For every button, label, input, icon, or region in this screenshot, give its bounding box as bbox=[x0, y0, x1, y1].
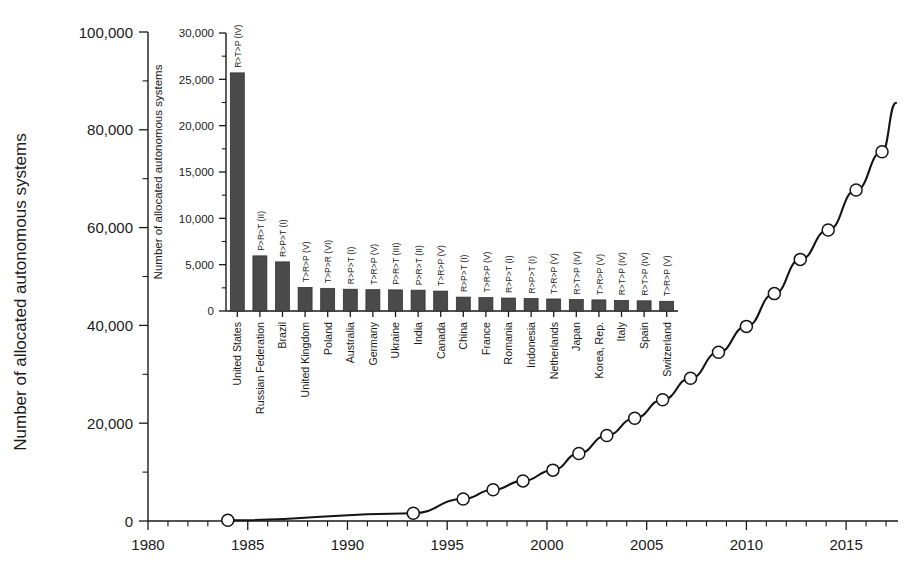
bar-category-label: United Kingdom bbox=[299, 322, 311, 398]
inset-y-ticks bbox=[219, 33, 226, 311]
bar-category-label: France bbox=[480, 322, 492, 355]
bar-code-label: R>T>P (IV) bbox=[233, 24, 243, 67]
inset-x-ticks bbox=[237, 311, 666, 317]
bar-code-label: T>R>P (V) bbox=[369, 244, 379, 285]
bar-category-label: Spain bbox=[638, 322, 650, 349]
bar-category-label: Brazil bbox=[276, 322, 288, 349]
bar-category-label: Japan bbox=[570, 322, 582, 351]
bar bbox=[660, 301, 674, 311]
bar-code-label: T>R>P (V) bbox=[549, 253, 559, 294]
svg-text:80,000: 80,000 bbox=[87, 121, 133, 138]
main-y-tick-labels: 020,00040,00060,00080,000100,000 bbox=[79, 24, 133, 530]
bar-code-label: R>P>T (I) bbox=[278, 219, 288, 257]
bar-category-label: Poland bbox=[322, 322, 334, 355]
svg-text:0: 0 bbox=[208, 305, 214, 317]
bar-category-label: Ukraine bbox=[389, 322, 401, 359]
bar-code-label: T>R>P (V) bbox=[301, 241, 311, 282]
bar bbox=[592, 300, 606, 311]
svg-text:25,000: 25,000 bbox=[179, 74, 214, 86]
bar-code-label: P>R>T (II) bbox=[414, 245, 424, 285]
svg-text:2010: 2010 bbox=[730, 536, 763, 553]
inset-category-labels: United StatesRussian FederationBrazilUni… bbox=[231, 321, 672, 414]
bar-code-label: R>T>P (IV) bbox=[572, 251, 582, 294]
svg-text:5,000: 5,000 bbox=[185, 259, 214, 271]
bar bbox=[434, 291, 448, 311]
bar bbox=[501, 298, 515, 311]
bar-code-label: P>R>T (II) bbox=[256, 211, 266, 251]
bar-code-label: T>P>R (VI) bbox=[323, 240, 333, 284]
svg-text:2015: 2015 bbox=[829, 536, 862, 553]
bar bbox=[275, 262, 289, 311]
svg-text:2000: 2000 bbox=[530, 536, 563, 553]
figure-container: 020,00040,00060,00080,000100,000 1980198… bbox=[0, 0, 911, 584]
main-y-axis-title: Number of allocated autonomous systems bbox=[11, 133, 30, 451]
svg-text:0: 0 bbox=[125, 513, 133, 530]
bar-code-label: R>T>P (IV) bbox=[617, 252, 627, 295]
bar bbox=[456, 297, 470, 311]
bar-code-label: T>R>P (V) bbox=[595, 254, 605, 295]
bar bbox=[614, 300, 628, 311]
main-y-ticks bbox=[139, 32, 148, 521]
chart-canvas: 020,00040,00060,00080,000100,000 1980198… bbox=[0, 0, 911, 584]
bar-category-label: Korea, Rep. bbox=[593, 322, 605, 379]
svg-text:2005: 2005 bbox=[630, 536, 663, 553]
bar-code-label: T>R>P (V) bbox=[436, 245, 446, 286]
bar bbox=[253, 256, 267, 311]
bar-category-label: Romania bbox=[502, 322, 514, 365]
svg-text:1990: 1990 bbox=[331, 536, 364, 553]
svg-text:1995: 1995 bbox=[431, 536, 464, 553]
inset-y-tick-labels: 05,00010,00015,00020,00025,00030,000 bbox=[179, 27, 214, 317]
bar-category-label: China bbox=[457, 322, 469, 350]
bar-category-label: Italy bbox=[615, 321, 627, 341]
svg-text:1980: 1980 bbox=[131, 536, 164, 553]
bar-category-label: Netherlands bbox=[548, 322, 560, 379]
svg-text:20,000: 20,000 bbox=[179, 120, 214, 132]
bar-code-label: R>P>T (I) bbox=[346, 247, 356, 285]
bar-code-label: T>R>P (V) bbox=[662, 255, 672, 296]
main-line-chart: 020,00040,00060,00080,000100,000 1980198… bbox=[11, 24, 898, 554]
bar bbox=[479, 298, 493, 311]
svg-text:1985: 1985 bbox=[231, 536, 264, 553]
bar bbox=[524, 298, 538, 311]
inset-bar-chart: 05,00010,00015,00020,00025,00030,000 R>T… bbox=[152, 24, 678, 413]
bar-code-label: R>P>T (I) bbox=[459, 254, 469, 292]
bar-code-label: P>R>T (III) bbox=[391, 242, 401, 284]
svg-text:60,000: 60,000 bbox=[87, 219, 133, 236]
bar bbox=[366, 290, 380, 311]
bar-category-label: India bbox=[412, 322, 424, 345]
svg-text:15,000: 15,000 bbox=[179, 166, 214, 178]
main-x-ticks bbox=[148, 521, 886, 530]
inset-axes bbox=[226, 33, 678, 311]
bar-code-label: R>T>P (IV) bbox=[640, 252, 650, 295]
svg-text:40,000: 40,000 bbox=[87, 317, 133, 334]
bar-category-label: United States bbox=[231, 322, 243, 386]
bar bbox=[547, 299, 561, 311]
bar-code-label: R>P>T (I) bbox=[527, 256, 537, 294]
bar bbox=[569, 299, 583, 311]
bar-category-label: Australia bbox=[344, 322, 356, 363]
bar bbox=[298, 287, 312, 311]
svg-text:10,000: 10,000 bbox=[179, 213, 214, 225]
bar bbox=[637, 301, 651, 311]
bar-category-label: Switzerland bbox=[661, 322, 673, 377]
bar bbox=[343, 289, 357, 311]
svg-text:100,000: 100,000 bbox=[79, 24, 133, 41]
bar bbox=[411, 290, 425, 311]
bar-code-label: T>R>P (V) bbox=[482, 252, 492, 293]
bar-category-label: Indonesia bbox=[525, 322, 537, 368]
bar-category-label: Canada bbox=[435, 322, 447, 359]
inset-bars bbox=[230, 73, 673, 311]
svg-text:30,000: 30,000 bbox=[179, 27, 214, 39]
bar bbox=[321, 288, 335, 311]
main-x-tick-labels: 19801985199019952000200520102015 bbox=[131, 536, 863, 553]
bar-category-label: Germany bbox=[367, 321, 379, 365]
inset-bar-code-labels: R>T>P (IV)P>R>T (II)R>P>T (I)T>R>P (V)T>… bbox=[233, 24, 672, 296]
bar-code-label: R>P>T (I) bbox=[504, 255, 514, 293]
bar bbox=[230, 73, 244, 311]
inset-y-axis-title: Number of allocated autonomous systems bbox=[152, 64, 164, 279]
svg-text:20,000: 20,000 bbox=[87, 415, 133, 432]
bar bbox=[388, 290, 402, 311]
bar-category-label: Russian Federation bbox=[254, 322, 266, 414]
